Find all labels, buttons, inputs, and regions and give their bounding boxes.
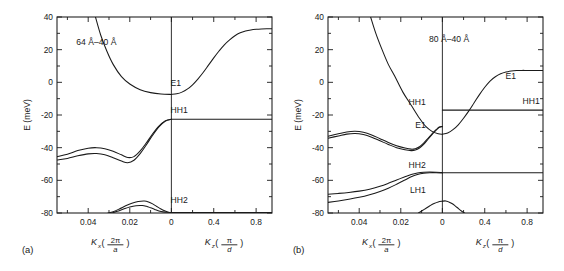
kx-axis-title-symbol: K [362,237,369,247]
x-tick-label: 0.02 [393,217,410,227]
band-curve [418,201,442,213]
band-label-lh1: LH1 [410,185,426,195]
kz-axis-title-denominator: d [227,245,232,254]
kx-axis-title-symbol: K [91,237,98,247]
kz-axis-title-symbol: K [476,237,483,247]
y-tick-label: -80 [312,208,324,218]
band-label-hh2: HH2 [409,160,426,170]
band-label-e1: E1 [415,120,426,130]
kx-axis-title: Kx()2πa [91,236,129,254]
panel-letter-a: (a) [22,244,33,255]
panel-a: 40200-20-40-60-800.040.0200.40.8E1HH1HH2… [22,12,272,255]
kz-axis-title-denominator: d [498,245,503,254]
band-curve [95,17,171,94]
kz-axis-title-numerator: π [227,236,232,245]
well-width-annotation: 64 Å–40 Å [76,37,116,47]
curves-group [328,17,543,213]
y-tick-label: 0 [48,77,53,87]
band-curve [57,119,171,157]
kx-axis-title-denominator: a [384,245,388,254]
y-axis-title: E (meV) [293,99,303,131]
kz-axis-title: Kz()πd [205,236,244,254]
x-tick-label: 0.8 [521,217,533,227]
kz-axis-title-paren-close: ) [511,238,514,248]
y-tick-label: 40 [44,12,54,22]
band-curve [57,119,171,162]
y-axis-title: E (meV) [22,99,32,131]
panel-b: 40200-20-40-60-800.040.0200.40.8HH1E1HH2… [293,12,543,255]
kx-axis-title-paren-open: ( [372,238,375,248]
x-tick-label: 0.4 [479,217,491,227]
x-tick-label: 0.04 [351,217,368,227]
x-tick-label: 0.02 [122,217,139,227]
kx-axis-title-denominator: a [113,245,117,254]
band-label-e1: E1 [171,78,182,88]
x-tick-label: 0.8 [250,217,262,227]
y-tick-label: -20 [312,110,324,120]
band-curve [328,127,442,151]
band-label-hh2: HH2 [171,195,188,205]
well-width-annotation: 80 Å–40 Å [429,34,469,44]
band-label-e1: E1 [506,71,517,81]
band-label-hh1: HH1 [523,96,540,106]
kz-axis-title-symbol: K [205,237,212,247]
band-curve [442,201,464,213]
y-tick-label: 20 [315,45,325,55]
band-label-hh1: HH1 [409,97,426,107]
kx-axis-title-numerator: 2π [111,236,120,245]
kx-axis-title-paren-close: ) [397,238,400,248]
kx-axis-title: Kx()2πa [362,236,401,254]
y-tick-label: 40 [315,12,325,22]
panel-letter-b: (b) [293,244,304,255]
x-tick-label: 0.4 [208,217,220,227]
band-structure-figure: 40200-20-40-60-800.040.0200.40.8E1HH1HH2… [0,0,564,271]
x-tick-label: 0 [440,217,445,227]
band-label-hh1: HH1 [171,105,188,115]
y-tick-label: -60 [41,175,53,185]
kx-axis-title-numerator: 2π [382,236,391,245]
kz-axis-title-paren-open: ( [486,238,489,248]
x-tick-label: 0 [169,217,174,227]
band-curve [112,205,171,213]
kx-axis-title-paren-close: ) [126,238,129,248]
y-tick-label: -40 [312,143,324,153]
kx-axis-title-paren-open: ( [101,238,104,248]
kz-axis-title: Kz()πd [476,236,514,254]
figure-svg: 40200-20-40-60-800.040.0200.40.8E1HH1HH2… [0,0,564,271]
band-curve [171,29,272,95]
x-tick-label: 0.04 [80,217,97,227]
y-tick-label: -60 [312,175,324,185]
kz-axis-title-numerator: π [498,236,503,245]
y-tick-label: 20 [44,45,54,55]
y-tick-label: -40 [41,143,53,153]
y-tick-label: 0 [319,77,324,87]
y-tick-label: -80 [41,208,53,218]
kz-axis-title-paren-close: ) [240,238,243,248]
kz-axis-title-paren-open: ( [215,238,218,248]
plot-frame [328,17,543,213]
y-tick-label: -20 [41,110,53,120]
